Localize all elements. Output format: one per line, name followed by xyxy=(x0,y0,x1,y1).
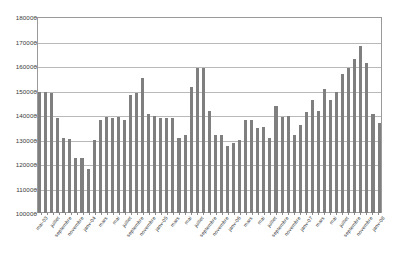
x-axis-tick-mark xyxy=(234,213,235,215)
x-axis-tick-mark xyxy=(203,213,204,215)
y-axis-tick-label: 160000 xyxy=(5,63,37,70)
bar xyxy=(274,106,277,213)
x-axis-tick-mark xyxy=(77,213,78,215)
bar xyxy=(268,138,271,213)
bar xyxy=(220,135,223,213)
x-axis-tick-mark xyxy=(276,213,277,215)
x-axis-tick-mark xyxy=(155,213,156,215)
bar xyxy=(323,89,326,213)
y-axis-tick-mark xyxy=(34,213,37,214)
bar xyxy=(353,59,356,213)
x-axis-tick-mark xyxy=(95,213,96,215)
bar xyxy=(93,140,96,213)
x-axis-tick-mark xyxy=(342,213,343,215)
y-axis-tick-label: 110000 xyxy=(5,185,37,192)
x-axis-tick-mark xyxy=(222,213,223,215)
bar xyxy=(202,68,205,214)
x-axis-tick-label: mars xyxy=(169,215,181,228)
x-axis-tick-mark xyxy=(282,213,283,215)
x-axis-tick-mark xyxy=(185,213,186,215)
y-axis-tick-label: 130000 xyxy=(5,136,37,143)
x-axis-tick-mark xyxy=(372,213,373,215)
x-axis-tick-label: mai xyxy=(255,215,265,225)
bar xyxy=(123,120,126,213)
x-axis: mai-03juilletseptembrenovembrejanv-04mar… xyxy=(38,215,381,270)
x-axis-tick-mark xyxy=(270,213,271,215)
x-axis-tick-mark xyxy=(179,213,180,215)
x-axis-tick-mark xyxy=(149,213,150,215)
x-axis-tick-mark xyxy=(143,213,144,215)
x-axis-tick-mark xyxy=(378,213,379,215)
x-axis-tick-mark xyxy=(312,213,313,215)
x-axis-tick-mark xyxy=(354,213,355,215)
x-axis-tick-mark xyxy=(258,213,259,215)
x-axis-tick-mark xyxy=(306,213,307,215)
bar xyxy=(141,78,144,213)
x-axis-tick-mark xyxy=(71,213,72,215)
bar xyxy=(171,118,174,213)
bar xyxy=(159,118,162,213)
bar xyxy=(281,117,284,213)
bar xyxy=(365,63,368,213)
x-axis-tick-mark xyxy=(191,213,192,215)
x-axis-tick-label: mai xyxy=(328,215,338,225)
bar xyxy=(335,92,338,213)
bar xyxy=(311,100,314,213)
x-axis-tick-mark xyxy=(330,213,331,215)
x-axis-tick-mark xyxy=(300,213,301,215)
bar xyxy=(196,68,199,214)
bar xyxy=(56,118,59,213)
bar xyxy=(111,118,114,213)
x-axis-tick-mark xyxy=(294,213,295,215)
y-axis: 1000001100001200001300001400001500001600… xyxy=(0,0,37,214)
bar xyxy=(165,118,168,213)
x-axis-tick-mark xyxy=(240,213,241,215)
bar xyxy=(329,100,332,213)
x-axis-tick-label: mars xyxy=(314,215,326,228)
bar xyxy=(135,93,138,213)
bar xyxy=(87,169,90,213)
bar xyxy=(38,92,41,213)
bar xyxy=(74,158,77,213)
y-axis-tick-label: 120000 xyxy=(5,161,37,168)
x-axis-tick-label: mai-03 xyxy=(34,215,49,231)
bar xyxy=(371,114,374,213)
x-axis-tick-mark xyxy=(318,213,319,215)
bar xyxy=(208,111,211,213)
bar xyxy=(117,117,120,213)
x-axis-tick-mark xyxy=(246,213,247,215)
x-axis-tick-mark xyxy=(288,213,289,215)
bar xyxy=(238,140,241,213)
bar xyxy=(293,135,296,213)
bar-series xyxy=(38,18,381,213)
bar xyxy=(62,138,65,213)
x-axis-tick-mark xyxy=(252,213,253,215)
x-axis-tick-mark xyxy=(107,213,108,215)
bar xyxy=(44,92,47,213)
bar xyxy=(287,116,290,213)
bar xyxy=(359,46,362,213)
x-axis-tick-mark xyxy=(324,213,325,215)
bar xyxy=(341,74,344,213)
x-axis-tick-mark xyxy=(210,213,211,215)
bar xyxy=(299,125,302,214)
y-axis-tick-label: 170000 xyxy=(5,38,37,45)
x-axis-tick-mark xyxy=(53,213,54,215)
x-axis-tick-mark xyxy=(228,213,229,215)
x-axis-tick-mark xyxy=(167,213,168,215)
x-axis-tick-mark xyxy=(59,213,60,215)
bar xyxy=(147,114,150,213)
bar xyxy=(232,143,235,213)
x-axis-tick-mark xyxy=(101,213,102,215)
y-axis-tick-label: 150000 xyxy=(5,87,37,94)
bar xyxy=(305,112,308,213)
bar xyxy=(99,120,102,213)
bar xyxy=(184,135,187,213)
x-axis-tick-mark xyxy=(119,213,120,215)
bar xyxy=(378,123,381,213)
x-axis-tick-mark xyxy=(348,213,349,215)
x-axis-tick-mark xyxy=(83,213,84,215)
bar xyxy=(68,139,71,213)
x-axis-tick-mark xyxy=(366,213,367,215)
x-axis-tick-mark xyxy=(125,213,126,215)
